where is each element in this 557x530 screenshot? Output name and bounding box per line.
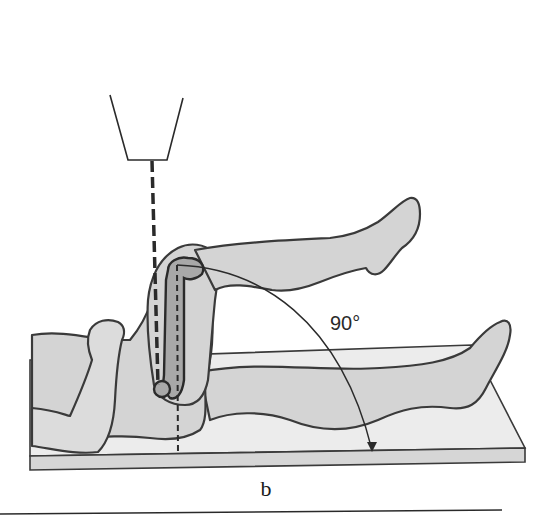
raised-lower-leg	[195, 198, 420, 291]
angle-label: 90°	[330, 312, 360, 334]
hip-flexion-illustration: 90° b	[0, 0, 557, 530]
xray-source-icon	[110, 95, 183, 160]
panel-label: b	[261, 476, 272, 501]
bottom-rule	[0, 510, 502, 514]
